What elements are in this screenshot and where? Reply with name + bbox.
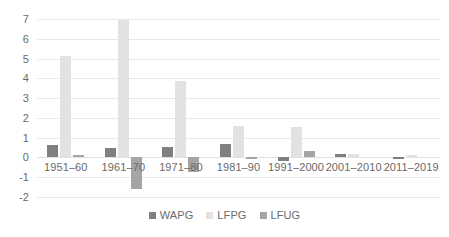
legend-item-label: LFPG [217,210,246,221]
bar-lfpg[interactable] [291,127,302,158]
x-axis-tick-label: 2001–2010 [326,162,382,173]
y-axis-tick-label: 5 [23,53,29,64]
x-axis-tick-label: 1971–80 [159,162,203,173]
legend-swatch-icon [206,212,213,219]
y-axis-tick-label: -1 [19,172,29,183]
x-axis-tick-label: 1951–60 [44,162,88,173]
legend-item-wapg[interactable]: WAPG [149,210,194,221]
bar-wapg[interactable] [105,148,116,158]
y-axis-tick-label: 4 [23,73,29,84]
bar-lfug[interactable] [304,151,315,158]
bar-wapg[interactable] [162,147,173,158]
bar-lfpg[interactable] [60,56,71,158]
y-axis-tick-label: 7 [23,14,29,25]
bar-lfpg[interactable] [348,154,359,157]
bar-lfug[interactable] [73,155,84,157]
legend-item-label: LFUG [271,210,301,221]
legend-item-label: WAPG [160,210,194,221]
x-axis-tick-label: 1981–90 [217,162,261,173]
x-axis-tick-label: 2011–2019 [384,162,439,173]
bar-lfpg[interactable] [118,20,129,157]
y-axis-tick-label: 1 [23,132,29,143]
x-axis-tick-label: 1991–2000 [268,162,324,173]
x-axis-tick-label: 1961–70 [102,162,146,173]
y-axis-tick-label: -2 [19,192,29,203]
bar-wapg[interactable] [335,154,346,157]
y-axis: 76543210-1-2 [0,19,33,197]
legend-item-lfpg[interactable]: LFPG [206,210,246,221]
bar-wapg[interactable] [47,145,58,157]
bar-wapg[interactable] [278,157,289,161]
y-axis-tick-label: 3 [23,93,29,104]
bar-wapg[interactable] [393,157,404,158]
y-axis-tick-label: 6 [23,33,29,44]
bar-lfpg[interactable] [406,155,417,157]
y-axis-tick-label: 2 [23,112,29,123]
chart-legend: WAPGLFPGLFUG [0,210,449,221]
bar-lfpg[interactable] [233,126,244,158]
bar-chart: 76543210-1-2 1951–601961–701971–801981–9… [0,0,449,237]
gridline [37,197,440,198]
legend-swatch-icon [149,212,156,219]
bar-lfpg[interactable] [175,81,186,157]
bar-lfug[interactable] [246,157,257,158]
legend-item-lfug[interactable]: LFUG [260,210,301,221]
bar-wapg[interactable] [220,144,231,158]
y-axis-tick-label: 0 [23,152,29,163]
legend-swatch-icon [260,212,267,219]
